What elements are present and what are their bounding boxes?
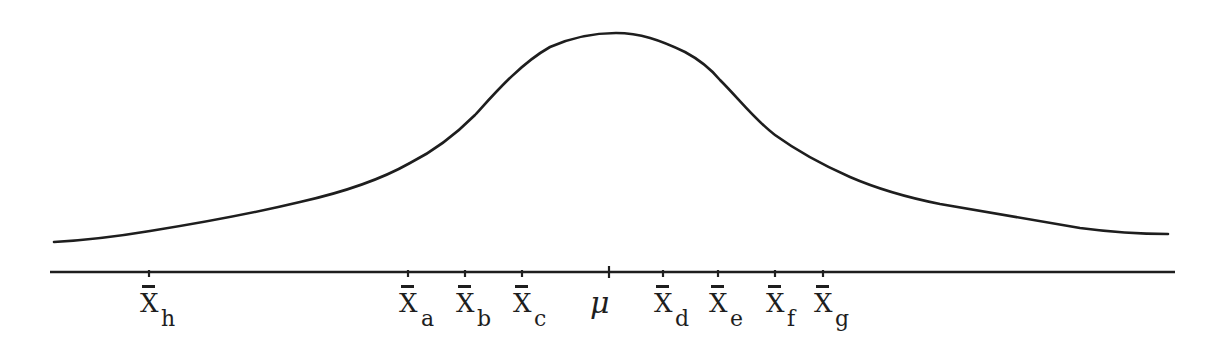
label-mu: μ xyxy=(590,288,610,318)
bell-curve xyxy=(54,33,1168,242)
